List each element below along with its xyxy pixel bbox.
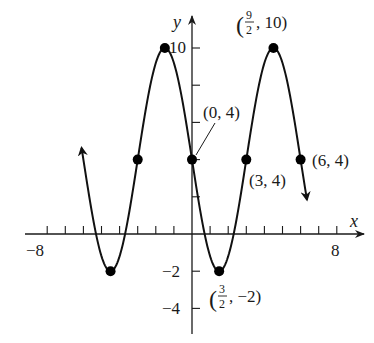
data-point: [133, 155, 143, 165]
data-point: [241, 155, 251, 165]
y-tick-label-neg4: −4: [162, 299, 181, 318]
annotation-rest: , −2): [229, 287, 261, 306]
fraction-denominator: 2: [246, 23, 252, 37]
annotation-open-paren: (: [236, 12, 244, 38]
y-axis-label: y: [171, 12, 181, 32]
fraction-denominator: 2: [219, 297, 225, 311]
x-tick-label-8: 8: [331, 241, 340, 260]
data-point: [296, 155, 306, 165]
annotation-3-4: (3, 4): [249, 171, 286, 190]
annotation-3-2-neg2: ( 3 2 , −2): [209, 282, 261, 312]
x-tick-label-neg8: −8: [26, 241, 44, 260]
data-point: [214, 266, 224, 276]
data-point: [187, 155, 197, 165]
data-point: [106, 266, 116, 276]
y-tick-label-neg2: −2: [162, 262, 180, 281]
fraction-numerator: 3: [219, 282, 225, 296]
leader-line-0-4: [196, 123, 215, 155]
data-point: [160, 43, 170, 53]
annotation-9-2-10: ( 9 2 , 10): [236, 8, 287, 38]
x-axis-label: x: [349, 211, 358, 231]
data-point: [268, 43, 278, 53]
sine-graph: x y −8 8 10 −2 −4 (0, 4) (3, 4) (6, 4) (…: [0, 0, 374, 343]
y-axis-ticks: [192, 48, 200, 308]
annotation-rest: , 10): [256, 13, 287, 32]
annotation-0-4: (0, 4): [203, 103, 240, 122]
fraction-numerator: 9: [246, 8, 252, 22]
annotation-6-4: (6, 4): [312, 151, 349, 170]
annotation-open-paren: (: [209, 286, 217, 312]
